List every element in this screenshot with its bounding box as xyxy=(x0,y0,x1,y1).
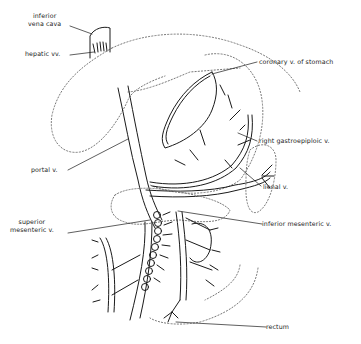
colon-outline xyxy=(150,265,258,324)
label-portal-vein: portal v. xyxy=(31,166,58,174)
lienal-vein xyxy=(146,172,270,191)
pancreas-outline xyxy=(111,188,230,224)
label-ivc-line2: vena cava xyxy=(28,20,61,28)
label-rectum: rectum xyxy=(266,323,289,331)
label-lienal-vein: lienal v. xyxy=(263,183,288,191)
leader-coronary xyxy=(212,62,257,74)
label-hepatic-veins: hepatic vv. xyxy=(25,50,60,58)
right-gastroepiploic-vein xyxy=(150,115,248,184)
label-inferior-mesenteric-vein: inferior mesenteric v. xyxy=(262,220,331,228)
inferior-mesenteric-vein xyxy=(176,212,187,300)
leader-superior-mesenteric xyxy=(68,220,150,233)
leader-ivc xyxy=(70,26,92,34)
label-ivc-line1: inferior xyxy=(28,12,61,20)
leader-inferior-mesenteric xyxy=(178,211,262,224)
coronary-vein xyxy=(162,72,216,148)
portal-vein xyxy=(118,88,155,228)
label-coronary-vein: coronary v. of stomach xyxy=(259,58,333,66)
label-superior-mesenteric-vein: superior mesenteric v. xyxy=(10,218,54,234)
label-sup-mes-line2: mesenteric v. xyxy=(10,226,54,234)
liver-outline xyxy=(51,34,300,152)
label-sup-mes-line1: superior xyxy=(10,218,54,226)
leader-portal xyxy=(68,139,128,170)
leader-rectum xyxy=(176,322,266,327)
leader-lines xyxy=(68,26,266,327)
label-inferior-vena-cava: inferior vena cava xyxy=(28,12,61,28)
hepatic-veins xyxy=(93,42,107,53)
label-right-gastroepiploic-vein: right gastroepiploic v. xyxy=(259,137,330,145)
superior-mesenteric-vein xyxy=(130,222,152,320)
